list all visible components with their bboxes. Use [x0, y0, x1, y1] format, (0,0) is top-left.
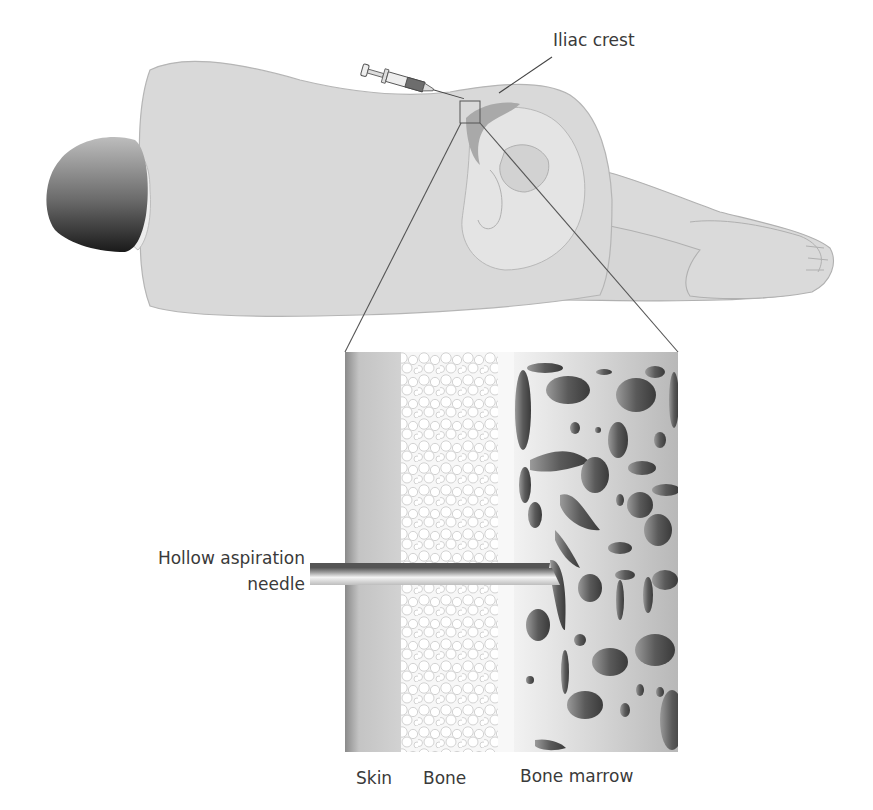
bone-layer	[401, 352, 498, 752]
label-iliac-crest: Iliac crest	[553, 30, 635, 50]
label-skin: Skin	[356, 768, 392, 788]
cross-section-inset	[310, 352, 684, 752]
label-needle-line1: Hollow aspiration	[158, 548, 305, 568]
patient-head	[46, 137, 147, 252]
aspiration-needle	[310, 563, 560, 585]
skin-layer	[345, 352, 401, 752]
bone-marrow-layer	[514, 352, 684, 752]
patient-illustration	[46, 61, 833, 316]
diagram-canvas: Iliac crest Hollow aspiration needle Ski…	[0, 0, 873, 810]
label-bone: Bone	[423, 768, 466, 788]
label-bone-marrow: Bone marrow	[520, 766, 633, 786]
label-needle-line2: needle	[247, 574, 305, 594]
